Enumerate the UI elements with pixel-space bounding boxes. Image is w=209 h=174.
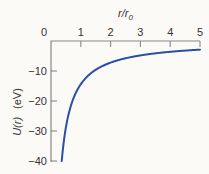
coulomb-potential-chart: r/r0 012345 −10−20−30−40 U(r)(eV)	[0, 0, 209, 174]
svg-text:U(r)(eV): U(r)(eV)	[11, 88, 23, 136]
x-axis-label: r/r0	[118, 7, 133, 22]
x-tick-label: 3	[137, 26, 143, 38]
y-axis-ticks: −10−20−30−40	[28, 65, 57, 167]
x-tick-label: 1	[78, 26, 84, 38]
y-tick-label: −20	[28, 95, 47, 107]
x-tick-label: 2	[108, 26, 114, 38]
x-tick-label: 0	[41, 26, 47, 38]
y-axis-label: U(r)(eV)	[11, 88, 23, 136]
y-tick-label: −30	[28, 125, 47, 137]
y-tick-label: −40	[28, 155, 47, 167]
x-tick-label: 5	[197, 26, 203, 38]
y-tick-label: −10	[28, 65, 47, 77]
x-axis-ticks: 012345	[41, 26, 203, 47]
potential-energy-curve	[62, 50, 200, 161]
x-tick-label: 4	[167, 26, 173, 38]
svg-text:r/r0: r/r0	[118, 7, 133, 22]
